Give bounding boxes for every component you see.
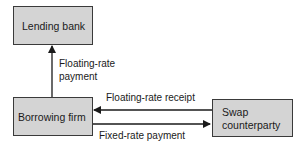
- swap-label-line1: Swap: [222, 106, 248, 118]
- swap-label-line2: counterparty: [222, 119, 280, 131]
- lending-bank-node: Lending bank: [13, 6, 93, 45]
- floating-payment-label-2: payment: [59, 71, 97, 83]
- floating-receipt-label: Floating-rate receipt: [106, 92, 195, 104]
- swap-counterparty-node: Swap counterparty: [212, 99, 293, 137]
- borrowing-firm-node: Borrowing firm: [13, 97, 93, 136]
- borrowing-firm-label: Borrowing firm: [18, 111, 86, 123]
- lending-bank-label: Lending bank: [22, 20, 85, 32]
- fixed-payment-label: Fixed-rate payment: [99, 130, 185, 142]
- floating-payment-label-1: Floating-rate: [59, 58, 115, 70]
